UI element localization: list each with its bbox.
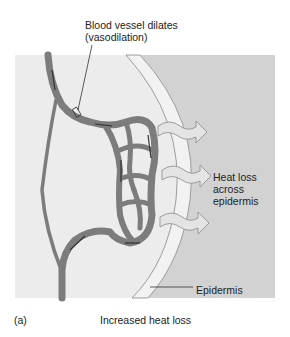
vessel-label-line2: (vasodilation): [85, 31, 178, 43]
heat-loss-label: Heat loss across epidermis: [213, 171, 259, 207]
figure-caption: Increased heat loss: [100, 314, 191, 326]
epidermis-label: Epidermis: [196, 284, 243, 296]
heat-label-line3: epidermis: [213, 195, 259, 207]
vasodilation-label: Blood vessel dilates (vasodilation): [85, 19, 178, 43]
heat-label-line1: Heat loss: [213, 171, 259, 183]
panel-label: (a): [14, 314, 27, 326]
heat-label-line2: across: [213, 183, 259, 195]
vasodilation-diagram: [0, 0, 290, 337]
vessel-label-line1: Blood vessel dilates: [85, 19, 178, 31]
